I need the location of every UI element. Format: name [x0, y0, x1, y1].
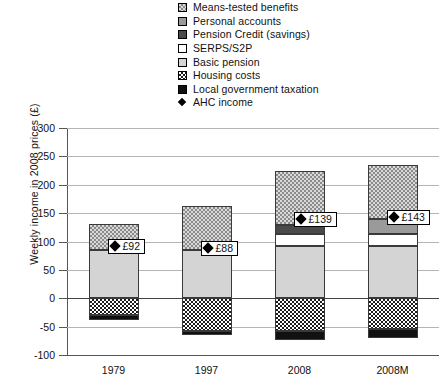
legend-item[interactable]: SERPS/S2P: [178, 42, 428, 56]
bar-segment-housing[interactable]: [182, 298, 232, 330]
y-axis-tick: 50: [59, 270, 67, 271]
bar-segment-localtax[interactable]: [89, 315, 139, 320]
y-axis-tick-label: 250: [37, 150, 55, 162]
bar-segment-basic[interactable]: [275, 246, 325, 298]
bar-segment-serps[interactable]: [368, 234, 418, 246]
chart-legend: Means-tested benefitsPersonal accountsPe…: [178, 1, 428, 110]
legend-item-label: Pension Credit (savings): [193, 29, 310, 40]
legend-item-label: AHC income: [193, 97, 253, 108]
legend-swatch-icon: [178, 17, 187, 26]
legend-swatch-icon: [178, 58, 187, 67]
legend-item-label: Personal accounts: [193, 16, 281, 27]
x-axis-tick-label: 2008: [260, 364, 340, 376]
legend-swatch-icon: [178, 71, 187, 80]
legend-item-label: Local government taxation: [193, 84, 319, 95]
y-axis-tick-label: 200: [37, 179, 55, 191]
bar-segment-localtax[interactable]: [368, 329, 418, 338]
bar-segment-means[interactable]: [275, 171, 325, 225]
y-axis-tick: 300: [59, 128, 67, 129]
y-axis-tick: 0: [59, 298, 67, 299]
bar-segment-means[interactable]: [368, 165, 418, 219]
bar-segment-localtax[interactable]: [275, 331, 325, 340]
y-axis-tick-label: 100: [37, 236, 55, 248]
y-axis-tick: 250: [59, 156, 67, 157]
legend-item-label: Means-tested benefits: [193, 2, 298, 13]
legend-item[interactable]: Personal accounts: [178, 15, 428, 29]
bar-group[interactable]: [368, 128, 418, 355]
bar-group[interactable]: [89, 128, 139, 355]
bar-group[interactable]: [275, 128, 325, 355]
legend-swatch-icon: [178, 30, 187, 39]
bar-segment-pensioncredit[interactable]: [275, 225, 325, 234]
legend-item[interactable]: Housing costs: [178, 69, 428, 83]
bar-segment-means[interactable]: [182, 206, 232, 250]
legend-swatch-icon: [178, 44, 187, 53]
bar-segment-basic[interactable]: [368, 246, 418, 298]
y-axis-tick-label: -100: [34, 349, 55, 361]
legend-item[interactable]: Basic pension: [178, 55, 428, 69]
x-axis-tick-label: 2008M: [353, 364, 433, 376]
legend-swatch-icon: [178, 85, 187, 94]
bar-segment-localtax[interactable]: [182, 331, 232, 336]
legend-item[interactable]: Means-tested benefits: [178, 1, 428, 15]
bar-segment-housing[interactable]: [275, 298, 325, 331]
bar-segment-basic[interactable]: [89, 250, 139, 298]
x-axis-tick-label: 1979: [74, 364, 154, 376]
y-axis-tick: 100: [59, 242, 67, 243]
plot-area: 300250200150100500-50-100 £92£88£139£143…: [67, 128, 439, 355]
y-axis-tick-label: -50: [40, 321, 55, 333]
legend-item-label: SERPS/S2P: [193, 43, 252, 54]
bar-segment-housing[interactable]: [368, 298, 418, 329]
y-axis-tick: 150: [59, 213, 67, 214]
legend-swatch-icon: [178, 3, 187, 12]
y-axis-tick-label: 300: [37, 122, 55, 134]
legend-item[interactable]: AHC income: [178, 96, 428, 110]
gridline: [67, 355, 439, 356]
bar-segment-serps[interactable]: [275, 234, 325, 246]
y-axis-tick-label: 50: [43, 264, 55, 276]
legend-item[interactable]: Local government taxation: [178, 83, 428, 97]
y-axis-tick-label: 0: [49, 292, 55, 304]
y-axis-tick: -50: [59, 327, 67, 328]
bar-group[interactable]: [182, 128, 232, 355]
legend-item-label: Basic pension: [193, 57, 260, 68]
chart-figure: Means-tested benefitsPersonal accountsPe…: [0, 0, 446, 385]
x-axis-tick-label: 1997: [167, 364, 247, 376]
bar-segment-means[interactable]: [89, 224, 139, 250]
legend-item-label: Housing costs: [193, 70, 260, 81]
bar-segment-housing[interactable]: [89, 298, 139, 315]
bar-segment-basic[interactable]: [182, 250, 232, 298]
y-axis-tick: -100: [59, 355, 67, 356]
bar-segment-personal[interactable]: [368, 219, 418, 233]
diamond-marker-icon: [178, 98, 187, 107]
y-axis-tick-label: 150: [37, 207, 55, 219]
legend-item[interactable]: Pension Credit (savings): [178, 28, 428, 42]
y-axis-tick: 200: [59, 185, 67, 186]
